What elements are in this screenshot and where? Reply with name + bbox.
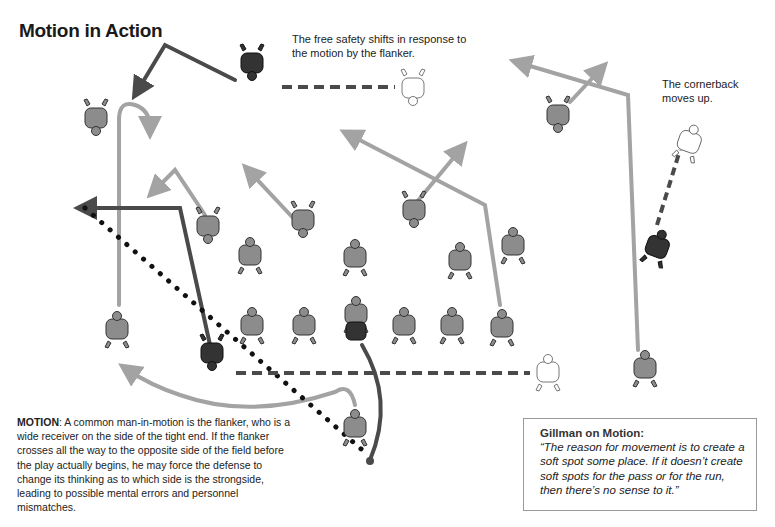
dark-linebacker [200, 334, 224, 371]
motion-explanation: MOTION: A common man-in-motion is the fl… [17, 415, 292, 514]
player-66 [292, 308, 316, 345]
player-73 [440, 308, 464, 345]
quote-heading: Gillman on Motion: [540, 427, 746, 439]
route-dark-left [85, 208, 210, 345]
player-19 [196, 207, 220, 244]
player-75 [240, 308, 264, 345]
player-92 [448, 243, 472, 280]
player-64 [392, 308, 416, 345]
player-55 [402, 191, 426, 228]
gillman-quote-box: Gillman on Motion: “The reason for movem… [523, 418, 757, 511]
player-87 [490, 310, 514, 347]
player-88 [633, 351, 657, 388]
center-dark [346, 322, 366, 340]
player-86 [343, 410, 367, 447]
player-82 [105, 312, 129, 349]
player-85 [501, 228, 525, 265]
player-51 [238, 238, 262, 275]
player-57 [343, 240, 367, 277]
quote-body: “The reason for movement is to create a … [540, 440, 746, 497]
free-safety-shifted [401, 69, 425, 106]
players-dark [200, 44, 675, 371]
player-outline-right [536, 355, 560, 392]
motion-lead: MOTION [17, 416, 59, 428]
free-safety-start [240, 44, 264, 81]
player-53 [291, 201, 315, 238]
route-hook [119, 104, 150, 305]
player-18 [84, 99, 108, 136]
route-safety [138, 45, 235, 90]
cornerback-start [640, 226, 675, 269]
dark-routes [85, 45, 381, 465]
motion-body: A common man-in-motion is the flanker, w… [17, 416, 290, 513]
player-24 [546, 96, 570, 133]
